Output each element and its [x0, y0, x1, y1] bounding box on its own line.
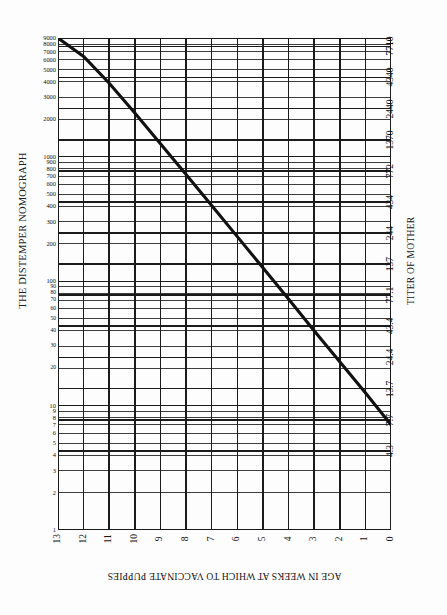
- bottom-axis-tick-text: 3: [309, 536, 319, 541]
- right-axis-tick-label: 137: [390, 250, 400, 264]
- right-axis-title: TITER OF MOTHER: [406, 217, 416, 305]
- left-axis-tick-label: 4: [53, 452, 56, 458]
- bottom-axis-tick-text: 7: [207, 536, 217, 541]
- right-axis-tick-label: 4340: [390, 58, 400, 77]
- left-axis-tick-label: 200: [46, 240, 56, 246]
- bottom-axis-tick-text: 11: [104, 534, 114, 543]
- nomograph-line: [58, 38, 391, 425]
- left-axis-tick-label: 40: [50, 328, 56, 334]
- left-axis-tick-label: 400: [46, 203, 56, 209]
- right-axis-tick-text: 7.7: [386, 414, 396, 426]
- right-axis-tick-label: 4.3: [390, 439, 400, 451]
- right-axis-tick-text: 772: [386, 164, 396, 178]
- left-axis-tick-label: 20: [50, 365, 56, 371]
- bottom-axis-tick-label: 4: [286, 534, 291, 544]
- right-axis-tick-text: 4.3: [386, 445, 396, 457]
- left-axis-tick-label: 1: [53, 527, 56, 533]
- left-axis-tick-label: 5: [53, 440, 56, 446]
- bottom-axis-tick-text: 9: [156, 536, 166, 541]
- bottom-axis-tick-label: 8: [184, 534, 189, 544]
- right-axis-tick-text: 13.7: [386, 380, 396, 397]
- right-axis-tick-text: 137: [386, 257, 396, 271]
- bottom-axis-tick-text: 10: [130, 534, 140, 544]
- right-axis-tick-text: 244: [386, 226, 396, 240]
- right-axis-tick-text: 24.4: [386, 349, 396, 366]
- bottom-axis-tick-label: 0: [389, 534, 394, 544]
- right-axis-tick-text: 4340: [386, 68, 396, 87]
- right-axis-tick-label: 772: [390, 156, 400, 170]
- left-axis-tick-label: 5000: [43, 67, 56, 73]
- bottom-axis-tick-label: 10: [130, 534, 140, 544]
- right-axis-tick-label: 2440: [390, 90, 400, 109]
- right-axis-tick-text: 7710: [386, 37, 396, 56]
- left-axis-tick-label: 4000: [43, 79, 56, 85]
- right-axis-tick-text: 1370: [386, 130, 396, 149]
- bottom-axis-tick-text: 8: [181, 536, 191, 541]
- left-axis-tick-label: 500: [46, 191, 56, 197]
- right-axis-tick-label: 43.4: [390, 310, 400, 327]
- right-axis-tick-label: 7710: [390, 27, 400, 46]
- nomograph-page: THE DISTEMPER NOMOGRAPH 9000800070006000…: [0, 0, 447, 615]
- right-axis-tick-label: 24.4: [390, 341, 400, 358]
- left-axis-tick-label: 7000: [43, 48, 56, 54]
- bottom-axis-tick-text: 2: [335, 536, 345, 541]
- left-axis-tick-label: 600: [46, 181, 56, 187]
- bottom-axis-tick-text: 13: [53, 534, 63, 544]
- left-axis-tick-label: 50: [50, 316, 56, 322]
- bottom-axis-tick-text: 0: [386, 536, 396, 541]
- right-axis-tick-text: 77.1: [386, 287, 396, 304]
- left-axis-tick-label: 6000: [43, 57, 56, 63]
- page-title: THE DISTEMPER NOMOGRAPH: [17, 131, 28, 331]
- left-axis-tick-label: 3: [53, 467, 56, 473]
- bottom-axis-tick-label: 7: [209, 534, 214, 544]
- left-axis-tick-label: 70: [50, 298, 56, 304]
- bottom-axis-tick-label: 5: [261, 534, 266, 544]
- bottom-axis-tick-label: 3: [312, 534, 317, 544]
- bottom-axis-tick-text: 5: [258, 536, 268, 541]
- bottom-axis-tick-label: 11: [105, 534, 114, 544]
- right-axis-tick-text: 434: [386, 195, 396, 209]
- right-axis-tick-label: 7.7: [390, 408, 400, 420]
- left-axis-tick-label: 6: [53, 430, 56, 436]
- left-axis-tick-label: 300: [46, 219, 56, 225]
- left-axis-tick-label: 700: [46, 173, 56, 179]
- left-axis-tick-label: 80: [50, 290, 56, 296]
- left-axis-tick-label: 7: [53, 422, 56, 428]
- grid-svg: [58, 38, 391, 530]
- left-axis-tick-label: 30: [50, 343, 56, 349]
- left-axis-tick-label: 60: [50, 306, 56, 312]
- bottom-axis-tick-text: 6: [233, 536, 243, 541]
- left-axis-tick-label: 2: [53, 489, 56, 495]
- bottom-axis-tick-text: 12: [79, 534, 89, 544]
- left-axis-tick-label: 2000: [43, 116, 56, 122]
- plot-area: 9000800070006000500040003000200010009008…: [58, 38, 391, 530]
- right-axis-tick-text: 43.4: [386, 318, 396, 335]
- right-axis-tick-label: 13.7: [390, 372, 400, 389]
- bottom-axis-tick-label: 9: [158, 534, 163, 544]
- bottom-axis-tick-text: 4: [284, 536, 294, 541]
- bottom-axis-tick-label: 13: [53, 534, 63, 544]
- bottom-axis-title: AGE IN WEEKS AT WHICH TO VACCINATE PUPPI…: [58, 571, 391, 582]
- right-axis-tick-label: 1370: [390, 121, 400, 140]
- right-axis-tick-label: 434: [390, 188, 400, 202]
- right-axis-tick-label: 244: [390, 219, 400, 233]
- left-axis-tick-label: 3000: [43, 94, 56, 100]
- right-axis-tick-text: 2440: [386, 99, 396, 118]
- right-axis-tick-label: 77.1: [390, 279, 400, 296]
- bottom-axis-tick-text: 1: [361, 536, 371, 541]
- bottom-axis-tick-label: 12: [79, 534, 89, 544]
- bottom-axis-tick-label: 1: [363, 534, 368, 544]
- bottom-axis-tick-label: 6: [235, 534, 240, 544]
- bottom-axis-tick-label: 2: [337, 534, 342, 544]
